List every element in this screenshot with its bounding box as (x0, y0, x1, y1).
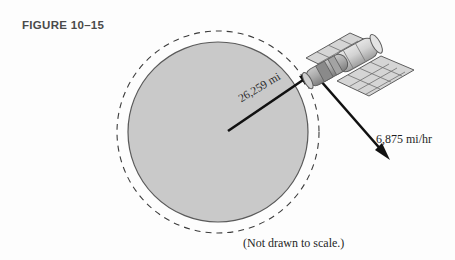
figure-page: FIGURE 10–15 (0, 0, 455, 260)
scale-caption: (Not drawn to scale.) (243, 236, 344, 251)
velocity-label: 6,875 mi/hr (376, 132, 432, 147)
figure-diagram (0, 0, 455, 260)
planet-circle (128, 42, 308, 222)
satellite-icon (300, 33, 414, 97)
